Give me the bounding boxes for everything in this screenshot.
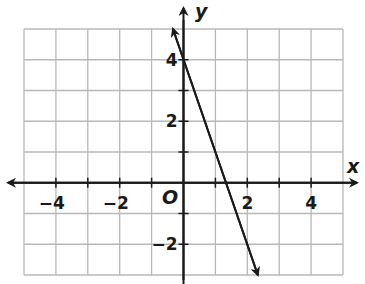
y-tick-label: 4 [166, 50, 178, 70]
x-tick-label: 2 [241, 193, 253, 213]
origin-label: O [162, 186, 178, 208]
x-axis-label: x [346, 155, 360, 177]
x-tick-label: −4 [39, 193, 65, 213]
x-tick-label: 4 [305, 193, 317, 213]
y-tick-label: 2 [166, 111, 178, 131]
x-tick-label: −2 [103, 193, 129, 213]
y-tick-label: −2 [151, 234, 177, 254]
axes [8, 8, 357, 284]
y-axis-label: y [195, 0, 209, 22]
coordinate-plane: −4−22442−2 x y O [0, 0, 365, 284]
